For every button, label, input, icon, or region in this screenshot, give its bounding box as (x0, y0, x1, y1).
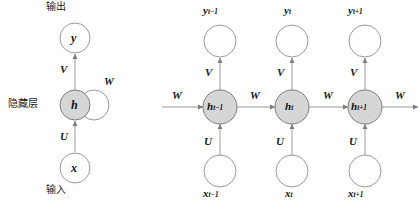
output-node-t (276, 25, 308, 57)
folded-weight-v-label: V (60, 64, 67, 75)
input-label-t-minus-1: xt−1 (203, 188, 219, 199)
input-node-t-plus-1 (349, 155, 381, 187)
unfolded-weight-w-step-0: W (250, 90, 260, 101)
hidden-label-t: ht (285, 101, 293, 112)
hidden-label-sub-t-plus-1: t+1 (357, 104, 367, 112)
output-label-t-minus-1: yt−1 (203, 5, 218, 16)
input-label-sub-t-minus-1: t−1 (209, 191, 219, 199)
weight-v-label-t-minus-1: V (205, 67, 212, 78)
input-label-sub-t-plus-1: t+1 (354, 191, 364, 199)
input-label-sub-t: t (291, 191, 293, 199)
unfolded-weight-w-outgoing: W (395, 90, 405, 101)
unfolded-weight-w-incoming: W (172, 90, 182, 101)
hidden-label-t-plus-1: ht+1 (351, 101, 367, 112)
weight-u-label-t-minus-1: U (204, 136, 212, 147)
folded-weight-u-label: U (60, 131, 68, 142)
hidden-label-sub-t: t (291, 104, 293, 112)
weight-v-label-t-plus-1: V (350, 67, 357, 78)
weight-u-label-t-plus-1: U (349, 136, 357, 147)
output-node-t-minus-1 (204, 25, 236, 57)
output-label-t: yt (284, 5, 291, 16)
weight-v-label-t: V (277, 67, 284, 78)
hidden-label-sub-t-minus-1: t−1 (213, 104, 223, 112)
input-label-t-plus-1: xt+1 (348, 188, 363, 199)
folded-output-label: 输出 (46, 2, 66, 12)
output-label-t-plus-1: yt+1 (348, 5, 363, 16)
folded-input-label: 输入 (46, 185, 66, 195)
output-label-sub-t-plus-1: t+1 (353, 8, 363, 16)
hidden-label-t-minus-1: ht−1 (207, 101, 223, 112)
folded-hidden-node-text: h (71, 99, 78, 111)
output-node-t-plus-1 (349, 25, 381, 57)
input-node-t (276, 155, 308, 187)
output-label-sub-t: t (289, 8, 291, 16)
weight-u-label-t: U (276, 136, 284, 147)
unfolded-weight-w-step-1: W (323, 90, 333, 101)
rnn-diagram: 输出 隐藏层 输入 y h x V U W W W W W yt−1 ht−1 … (0, 0, 420, 202)
folded-weight-w-label: W (104, 76, 114, 87)
folded-hidden-layer-label: 隐藏层 (8, 99, 38, 109)
input-label-t: xt (285, 188, 293, 199)
output-label-sub-t-minus-1: t−1 (208, 8, 218, 16)
folded-input-node-text: x (71, 162, 77, 174)
input-node-t-minus-1 (204, 155, 236, 187)
folded-output-node-text: y (71, 32, 76, 44)
